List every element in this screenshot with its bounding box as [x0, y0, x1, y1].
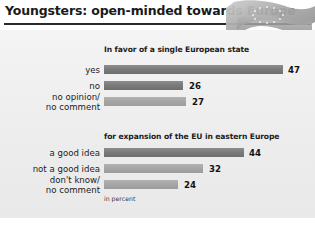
bar-no [104, 81, 183, 90]
row-label-dont-know-line1: don't know/ [50, 175, 100, 185]
page-title: Youngsters: open-minded towards Europe [5, 3, 296, 18]
header-divider [4, 23, 311, 25]
row-label-dont-know: don't know/ no comment [4, 176, 100, 195]
bar-value-no-opinion: 27 [192, 97, 204, 107]
bar-not-a-good-idea [104, 164, 203, 173]
row-label-no-opinion-line2: no comment [46, 102, 100, 112]
infographic-root: Youngsters: open-minded towards Europe [0, 0, 315, 225]
row-label-no-opinion: no opinion/ no comment [4, 93, 100, 112]
section-title-eu-expansion: for expansion of the EU in eastern Europ… [104, 132, 279, 141]
bar-value-not-a-good-idea: 32 [209, 164, 221, 174]
bottom-edge [0, 218, 315, 225]
bar-value-yes: 47 [288, 65, 300, 75]
row-label-no-opinion-line1: no opinion/ [52, 92, 100, 102]
bar-yes [104, 65, 283, 74]
bar-no-opinion [104, 97, 186, 106]
bar-value-no: 26 [189, 81, 201, 91]
unit-note: in percent [104, 195, 135, 202]
bar-dont-know [104, 180, 178, 189]
section-title-single-european-state: In favor of a single European state [104, 45, 249, 54]
bar-a-good-idea [104, 148, 244, 157]
row-label-not-a-good-idea: not a good idea [4, 165, 100, 175]
row-label-a-good-idea: a good idea [4, 149, 100, 159]
row-label-no: no [4, 82, 100, 92]
bar-value-dont-know: 24 [184, 180, 196, 190]
bar-value-a-good-idea: 44 [249, 148, 261, 158]
chart-panel: In favor of a single European state yes … [0, 30, 315, 218]
header: Youngsters: open-minded towards Europe [0, 0, 315, 30]
row-label-dont-know-line2: no comment [46, 185, 100, 195]
row-label-yes: yes [4, 66, 100, 76]
